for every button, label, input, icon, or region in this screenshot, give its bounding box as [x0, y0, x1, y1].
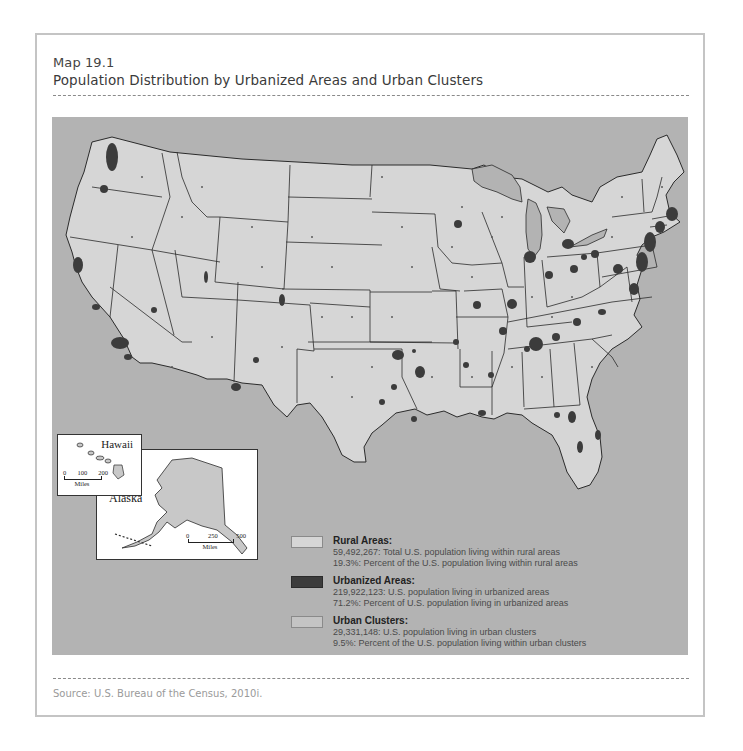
- urbanized-swatch: [291, 576, 323, 588]
- footer-divider: [53, 678, 689, 679]
- alaska-scale-tick-2: 500: [236, 532, 246, 539]
- legend-item-urban-clusters: Urban Clusters: 29,331,148: U.S. populat…: [288, 615, 588, 648]
- contiguous-us-outline: [66, 135, 684, 489]
- legend-line: 59,492,267: Total U.S. population living…: [333, 547, 588, 558]
- hawaii-scale-tick-0: 0: [63, 469, 66, 476]
- alaska-scale-bar: 0 250 500 Miles: [186, 532, 246, 550]
- legend-line: 29,331,148: U.S. population living in ur…: [333, 627, 588, 638]
- legend-line: 71.2%: Percent of U.S. population living…: [333, 598, 588, 609]
- alaska-scale-tick-0: 0: [186, 532, 189, 539]
- legend: Rural Areas: 59,492,267: Total U.S. popu…: [288, 535, 588, 655]
- hawaii-scale-unit: Miles: [63, 480, 101, 487]
- legend-title: Urban Clusters:: [333, 615, 588, 627]
- urban-clusters-swatch: [291, 616, 323, 628]
- legend-item-urbanized: Urbanized Areas: 219,922,123: U.S. popul…: [288, 575, 588, 608]
- header-divider: [53, 95, 689, 96]
- legend-item-rural: Rural Areas: 59,492,267: Total U.S. popu…: [288, 535, 588, 568]
- hawaii-scale-tick-1: 100: [77, 469, 87, 476]
- legend-title: Urbanized Areas:: [333, 575, 588, 587]
- legend-line: 9.5%: Percent of the U.S. population liv…: [333, 638, 588, 649]
- rural-swatch: [291, 536, 323, 548]
- hawaii-scale-bar: 0 100 200 Miles: [63, 469, 108, 487]
- legend-line: 219,922,123: U.S. population living in u…: [333, 587, 588, 598]
- map-title: Population Distribution by Urbanized Are…: [53, 72, 483, 88]
- hawaii-scale-tick-2: 200: [98, 469, 108, 476]
- alaska-scale-tick-1: 250: [208, 532, 218, 539]
- legend-line: 19.3%: Percent of the U.S. population li…: [333, 558, 588, 569]
- map-number: Map 19.1: [53, 55, 114, 70]
- source-note: Source: U.S. Bureau of the Census, 2010i…: [53, 688, 262, 699]
- alaska-scale-unit: Miles: [186, 543, 234, 550]
- hawaii-inset: Hawaii 0 100 200 Miles: [57, 434, 142, 496]
- legend-title: Rural Areas:: [333, 535, 588, 547]
- map-panel: Alaska 0 250 500 Miles Hawaii 0: [52, 117, 688, 655]
- hawaii-label: Hawaii: [101, 438, 133, 450]
